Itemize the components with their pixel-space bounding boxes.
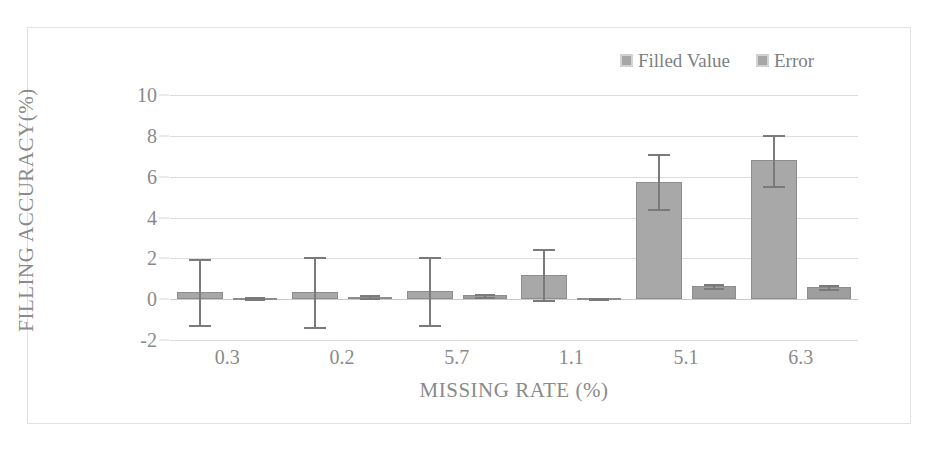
y-tick-mark <box>159 95 169 96</box>
error-bar-cap <box>245 299 265 301</box>
x-tick-label: 0.3 <box>215 340 240 367</box>
y-tick-mark <box>159 299 169 300</box>
error-bar-cap <box>704 284 724 286</box>
error-bar-cap <box>763 186 785 188</box>
legend-swatch-icon <box>756 54 769 67</box>
x-tick-label: 6.3 <box>788 340 813 367</box>
plot-area: 1086420-20.30.25.71.15.16.3 <box>170 95 858 340</box>
y-tick-label: 8 <box>147 126 157 146</box>
error-bar-cap <box>589 299 609 301</box>
x-axis-title: MISSING RATE (%) <box>170 378 858 403</box>
error-bar-cap <box>304 257 326 259</box>
y-tick-label: -2 <box>140 330 157 350</box>
error-bar-whisker <box>199 259 201 324</box>
error-bar-cap <box>189 325 211 327</box>
legend-entry-error[interactable]: Error <box>756 51 814 70</box>
x-tick-label: 0.2 <box>330 340 355 367</box>
error-bar-cap <box>475 297 495 299</box>
error-bar-cap <box>704 288 724 290</box>
error-bar-cap <box>419 325 441 327</box>
error-bar-cap <box>648 154 670 156</box>
y-tick-mark <box>159 340 169 341</box>
error-bar-whisker <box>429 257 431 324</box>
y-tick-label: 0 <box>147 289 157 309</box>
error-bar-cap <box>533 249 555 251</box>
error-bar-cap <box>763 135 785 137</box>
x-tick-label: 5.7 <box>444 340 469 367</box>
error-bar-cap <box>189 259 211 261</box>
legend-swatch-icon <box>620 54 633 67</box>
x-tick-label: 5.1 <box>674 340 699 367</box>
legend-entry-filled-value[interactable]: Filled Value <box>620 51 730 70</box>
error-bar-cap <box>360 298 380 300</box>
gridline <box>170 136 858 137</box>
error-bar-cap <box>475 294 495 296</box>
error-bar-cap <box>533 300 555 302</box>
error-bar-whisker <box>658 154 660 209</box>
error-bar-cap <box>648 209 670 211</box>
x-tick-label: 1.1 <box>559 340 584 367</box>
error-bar-cap <box>419 257 441 259</box>
chart-legend: Filled Value Error <box>620 47 814 73</box>
legend-label-filled-value: Filled Value <box>638 51 730 70</box>
error-bar-cap <box>304 327 326 329</box>
y-axis-title: FILLING ACCURACY(%) <box>14 60 40 360</box>
y-tick-mark <box>159 135 169 136</box>
error-bar-whisker <box>773 135 775 186</box>
error-bar-cap <box>819 285 839 287</box>
gridline <box>170 95 858 96</box>
error-bar-whisker <box>543 249 545 300</box>
gridline <box>170 340 858 341</box>
chart-figure: Filled Value Error 1086420-20.30.25.71.1… <box>0 0 938 453</box>
y-tick-label: 6 <box>147 167 157 187</box>
error-bar-whisker <box>314 257 316 326</box>
y-tick-mark <box>159 176 169 177</box>
y-tick-label: 10 <box>137 85 157 105</box>
legend-label-error: Error <box>774 51 814 70</box>
y-tick-label: 4 <box>147 208 157 228</box>
y-tick-mark <box>159 258 169 259</box>
y-tick-label: 2 <box>147 248 157 268</box>
error-bar-cap <box>819 289 839 291</box>
y-tick-mark <box>159 217 169 218</box>
